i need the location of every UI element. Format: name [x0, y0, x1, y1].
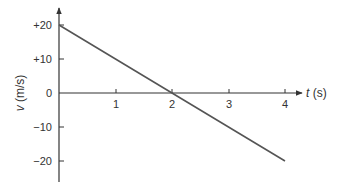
y-tick-label: +20: [33, 19, 52, 31]
x-tick-label: 1: [113, 98, 119, 110]
x-tick-label: 2: [169, 98, 175, 110]
y-tick-label: +10: [33, 53, 52, 65]
x-tick-label: 4: [282, 98, 288, 110]
y-tick-label: −10: [33, 121, 52, 133]
x-tick-label: 3: [226, 98, 232, 110]
y-tick-label: −20: [33, 155, 52, 167]
velocity-time-chart: +20 +10 0 −10 −20 1 2 3 4 t (s) v (m/s): [0, 0, 344, 186]
y-tick-label: 0: [46, 87, 52, 99]
y-axis-label: v (m/s): [13, 75, 27, 112]
x-axis-label: t (s): [306, 86, 327, 100]
